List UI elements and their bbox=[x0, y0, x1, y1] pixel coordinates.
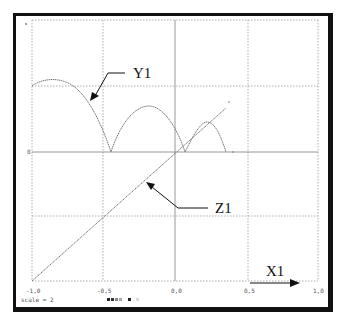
arrow-right-icon bbox=[290, 279, 300, 287]
scale-swatches bbox=[107, 298, 139, 301]
scale-text: scale = 2 bbox=[21, 296, 54, 303]
series-y1-curve bbox=[32, 80, 226, 152]
label-x1: X1 bbox=[266, 263, 284, 279]
y-tick-0: 0 bbox=[27, 148, 31, 155]
x-tick-neg1: -1,0 bbox=[26, 287, 41, 294]
series-z1-end-marker bbox=[228, 101, 230, 103]
x-tick-05: 0,5 bbox=[244, 287, 255, 294]
plot-area: 0 -1,0 -0,5 0,0 0,5 1,0 scale = 2 Y1 Z1 … bbox=[0, 0, 341, 322]
annotation-x1: X1 bbox=[250, 263, 300, 287]
annotation-y1: Y1 bbox=[90, 65, 151, 101]
axes bbox=[32, 20, 318, 281]
label-y1: Y1 bbox=[133, 65, 151, 81]
series-y1-end-marker bbox=[232, 151, 234, 153]
annotation-z1: Z1 bbox=[146, 182, 232, 216]
series-z1-line bbox=[32, 108, 226, 281]
x-tick-0: 0,0 bbox=[171, 287, 182, 294]
x-tick-1: 1,0 bbox=[313, 287, 324, 294]
arrow-head-icon bbox=[90, 92, 99, 101]
corner-marker bbox=[25, 23, 27, 25]
label-z1: Z1 bbox=[215, 200, 232, 216]
x-tick-neg05: -0,5 bbox=[97, 287, 112, 294]
